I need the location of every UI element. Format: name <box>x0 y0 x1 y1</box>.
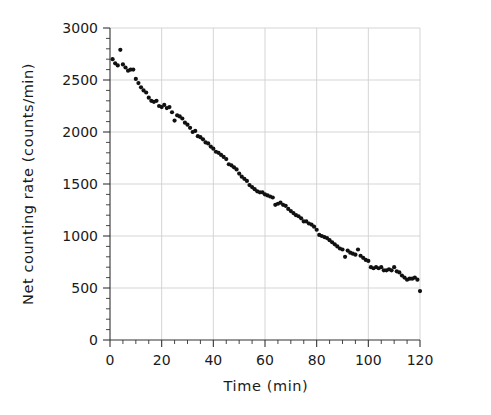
decay-plot-figure: 020406080100120 050010001500200025003000… <box>0 0 491 415</box>
data-point <box>167 105 171 109</box>
y-tick-label: 2000 <box>62 124 98 140</box>
y-tick-label: 1500 <box>62 176 98 192</box>
x-tick-label: 60 <box>256 352 274 368</box>
x-tick-label: 20 <box>153 352 171 368</box>
x-tick-label: 120 <box>407 352 434 368</box>
data-points <box>110 48 422 293</box>
data-point <box>315 228 319 232</box>
plot-canvas: 020406080100120 050010001500200025003000… <box>0 0 491 415</box>
data-point <box>170 110 174 114</box>
data-point <box>271 195 275 199</box>
y-tick-label: 3000 <box>62 20 98 36</box>
data-point <box>353 253 357 257</box>
data-point <box>224 157 228 161</box>
y-tick-label: 1000 <box>62 228 98 244</box>
x-tick-label: 80 <box>308 352 326 368</box>
data-point <box>172 118 176 122</box>
data-point <box>234 167 238 171</box>
data-point <box>131 68 135 72</box>
x-axis-tick-labels: 020406080100120 <box>106 352 434 368</box>
data-point <box>193 129 197 133</box>
y-tick-label: 0 <box>89 332 98 348</box>
data-point <box>392 265 396 269</box>
data-point <box>118 48 122 52</box>
data-point <box>415 278 419 282</box>
data-point <box>180 116 184 120</box>
gridlines <box>110 28 420 340</box>
data-point <box>418 289 422 293</box>
y-axis-tick-labels: 050010001500200025003000 <box>62 20 98 348</box>
data-point <box>144 90 148 94</box>
data-point <box>356 247 360 251</box>
data-point <box>136 81 140 85</box>
data-point <box>134 77 138 81</box>
data-point <box>366 259 370 263</box>
y-tick-label: 500 <box>71 280 98 296</box>
data-point <box>188 126 192 130</box>
x-tick-label: 40 <box>204 352 222 368</box>
data-point <box>154 99 158 103</box>
data-point <box>116 63 120 67</box>
y-axis-title: Net counting rate (counts/min) <box>20 63 36 305</box>
y-tick-label: 2500 <box>62 72 98 88</box>
data-point <box>245 179 249 183</box>
x-tick-label: 0 <box>106 352 115 368</box>
data-point <box>343 255 347 259</box>
axis-ticks <box>103 28 420 347</box>
x-tick-label: 100 <box>355 352 382 368</box>
data-point <box>110 57 114 61</box>
data-point <box>340 247 344 251</box>
x-axis-title: Time (min) <box>223 378 309 394</box>
